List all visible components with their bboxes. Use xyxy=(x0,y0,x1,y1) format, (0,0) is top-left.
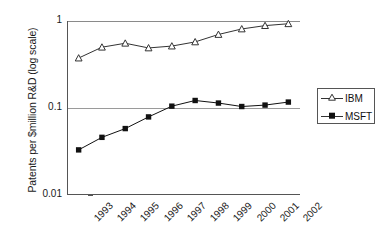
datapoint-msft-1998 xyxy=(192,98,197,103)
datapoint-msft-1997 xyxy=(169,103,174,108)
patents-per-rd-line-chart: Patents per $million R&D (log scale) 10.… xyxy=(0,0,387,241)
legend-label-msft: MSFT xyxy=(345,111,372,122)
open-triangle-icon xyxy=(321,91,343,105)
datapoint-msft-2000 xyxy=(239,104,244,109)
series-ibm xyxy=(75,20,292,61)
datapoint-msft-1999 xyxy=(216,100,221,105)
datapoint-msft-2002 xyxy=(286,99,291,104)
datapoint-msft-1995 xyxy=(123,126,128,131)
datapoint-msft-1994 xyxy=(99,135,104,140)
legend-entry-msft: MSFT xyxy=(318,107,376,125)
datapoint-msft-1996 xyxy=(146,114,151,119)
legend-entry-ibm: IBM xyxy=(318,89,376,107)
datapoint-msft-2001 xyxy=(262,102,267,107)
chart-legend: IBM MSFT xyxy=(317,88,375,124)
datapoint-msft-1993 xyxy=(76,147,81,152)
filled-square-icon xyxy=(321,109,343,123)
series-msft xyxy=(76,98,291,153)
series-line-ibm xyxy=(79,24,289,58)
datapoint-ibm-1993 xyxy=(75,55,82,61)
series-line-msft xyxy=(79,100,289,149)
legend-label-ibm: IBM xyxy=(345,93,363,104)
datapoint-ibm-1995 xyxy=(122,40,129,46)
